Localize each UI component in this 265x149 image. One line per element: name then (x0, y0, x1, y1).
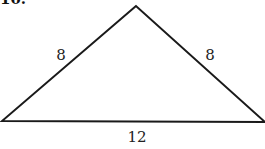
base-label: 12 (127, 128, 146, 146)
triangle-shape (2, 6, 265, 122)
triangle-diagram: 8 8 12 (0, 0, 265, 149)
left-side-label: 8 (56, 46, 66, 64)
right-side-label: 8 (205, 46, 215, 64)
